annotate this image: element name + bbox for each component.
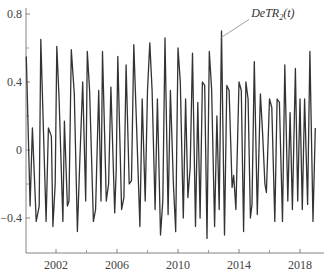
x-tick-label: 2006	[105, 258, 129, 272]
y-axis: 0.80.40−0.4	[0, 7, 30, 253]
y-tick-label: 0.8	[7, 7, 22, 21]
x-tick-label: 2018	[288, 258, 312, 272]
plot-area	[26, 31, 315, 238]
x-tick-label: 2010	[166, 258, 190, 272]
series-line-detr2	[26, 31, 315, 238]
series-label: DeTR2(t)	[250, 6, 294, 22]
x-tick-label: 2002	[44, 258, 68, 272]
x-tick-label: 2014	[227, 258, 251, 272]
y-tick-label: 0	[16, 143, 22, 157]
y-tick-label: −0.4	[0, 211, 22, 225]
line-chart: 0.80.40−0.4 20022006201020142018 DeTR2(t…	[0, 0, 328, 278]
series-annotation: DeTR2(t)	[221, 6, 295, 37]
y-tick-label: 0.4	[7, 75, 22, 89]
annotation-leader-line	[221, 19, 250, 37]
x-axis: 20022006201020142018	[26, 249, 324, 272]
